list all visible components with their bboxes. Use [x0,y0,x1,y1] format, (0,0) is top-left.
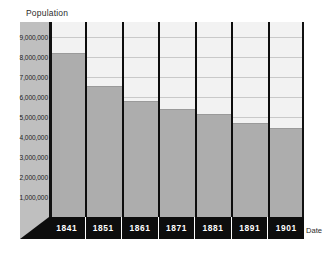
column-separator [231,22,233,217]
bar-1841 [49,53,85,217]
y-axis-tick-label: 2,000,000 [20,174,48,181]
x-axis-tick-label: 1861 [122,217,159,239]
column-separator [158,22,160,217]
y-axis-tick-label: 1,000,000 [20,194,48,201]
bar-cell [49,22,85,217]
bar-cell [231,22,267,217]
figure-caption [8,246,328,261]
corner-wedge-decoration [20,217,49,239]
x-axis-tick-label: 1891 [232,217,269,239]
column-separator [85,22,87,217]
y-axis-tick-label: 9,000,000 [20,34,48,41]
bar-cell [158,22,194,217]
x-axis-tick-label: 1871 [159,217,196,239]
population-bar-chart-figure: Population 9,000,0008,000,0007,000,0006,… [0,0,329,261]
bar-1861 [122,101,158,217]
bar-1871 [158,109,194,217]
bar-1891 [231,123,267,217]
y-axis-tick-label: 7,000,000 [20,74,48,81]
x-axis-title: Date [306,226,322,235]
x-axis-tick-label: 1841 [49,217,86,239]
y-axis-tick-labels: 9,000,0008,000,0007,000,0006,000,0005,00… [20,22,49,217]
bar-cell [122,22,158,217]
x-axis-tick-label: 1881 [195,217,232,239]
bar-cell [85,22,121,217]
y-axis-tick-label: 4,000,000 [20,134,48,141]
bar-cell [195,22,231,217]
y-axis-tick-label: 8,000,000 [20,54,48,61]
x-axis-tick-label: 1901 [268,217,304,239]
plot-right-spine [302,22,304,217]
y-axis-tick-label: 6,000,000 [20,94,48,101]
y-axis-tick-label: 3,000,000 [20,154,48,161]
x-axis-tick-label: 1851 [86,217,123,239]
column-separator [268,22,270,217]
bar-cell [268,22,304,217]
bar-1901 [268,128,304,217]
chart-block: 9,000,0008,000,0007,000,0006,000,0005,00… [20,22,304,239]
column-separator [195,22,197,217]
bar-1851 [85,86,121,217]
plot-area [49,22,304,217]
x-axis-tick-labels: 1841185118611871188118911901 [49,217,304,239]
column-separator [122,22,124,217]
y-axis-title: Population [26,8,68,18]
bar-1881 [195,114,231,217]
y-axis-tick-label: 5,000,000 [20,114,48,121]
y-axis-spine [49,22,52,239]
